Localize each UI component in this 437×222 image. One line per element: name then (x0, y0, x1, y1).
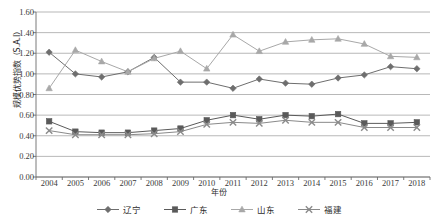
y-axis-tick-label: 0.40 (4, 131, 34, 141)
y-axis-tick-label: 1.40 (4, 28, 34, 38)
data-point-square (46, 119, 51, 124)
data-point-square (283, 112, 288, 117)
legend-swatch-square-icon (163, 204, 187, 215)
legend-swatch-triangle-icon (230, 204, 254, 215)
data-point-square (172, 206, 177, 211)
y-axis-tick-label: 0.80 (4, 90, 34, 100)
data-point-square (335, 111, 340, 116)
legend-label: 辽宁 (123, 203, 141, 215)
data-point-square (230, 112, 235, 117)
legend-label: 福建 (324, 203, 342, 215)
legend-item-辽宁[interactable]: 辽宁 (96, 203, 141, 215)
y-axis-tick-label: 1.00 (4, 69, 34, 79)
data-point-diamond (104, 206, 110, 212)
legend-swatch-cross-icon (297, 204, 321, 215)
data-point-square (414, 120, 419, 125)
legend-swatch-diamond-icon (96, 204, 120, 215)
scale-advantage-index-line-chart: 规模优势指数（S.A.I） 0.000.200.400.600.801.001.… (0, 0, 437, 222)
legend-item-福建[interactable]: 福建 (297, 203, 342, 215)
y-axis-tick-label: 0.00 (4, 172, 34, 182)
y-axis-tick-label: 0.20 (4, 151, 34, 161)
chart-legend: 辽宁广东山东福建 (0, 203, 437, 215)
legend-label: 广东 (190, 203, 208, 215)
y-axis-tick-label: 1.60 (4, 7, 34, 17)
legend-item-广东[interactable]: 广东 (163, 203, 208, 215)
legend-item-山东[interactable]: 山东 (230, 203, 275, 215)
data-point-square (309, 113, 314, 118)
legend-label: 山东 (257, 203, 275, 215)
y-axis-tick-label: 0.60 (4, 110, 34, 120)
x-axis-tick-label: 2018 (400, 178, 434, 188)
y-axis-tick-label: 1.20 (4, 48, 34, 58)
